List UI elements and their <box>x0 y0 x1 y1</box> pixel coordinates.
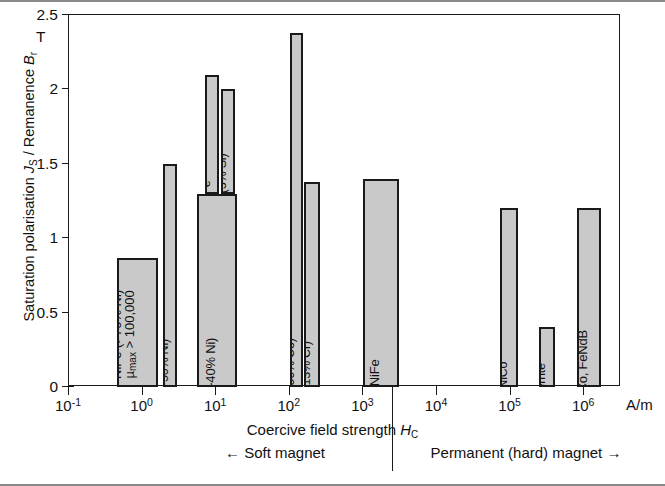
x-axis-tick-label: 104 <box>425 396 448 414</box>
x-axis-tick <box>215 386 216 395</box>
x-axis: 10-1100101102103104105106 <box>0 0 665 486</box>
x-axis-unit-label: A/m <box>626 396 653 413</box>
x-axis-tick-label: 101 <box>204 396 227 414</box>
x-axis-tick-label: 105 <box>498 396 521 414</box>
x-axis-tick <box>68 386 69 395</box>
x-axis-title: Coercive field strength HC <box>0 421 665 440</box>
x-axis-tick-label: 102 <box>278 396 301 414</box>
zone-label-soft-magnet: ← Soft magnet <box>160 444 390 461</box>
x-axis-tick-label: 106 <box>572 396 595 414</box>
x-axis-symbol-h: H <box>400 421 411 438</box>
x-axis-tick <box>289 386 290 395</box>
x-axis-tick <box>142 386 143 395</box>
x-axis-tick-label: 10-1 <box>55 396 81 414</box>
x-axis-tick <box>362 386 363 395</box>
x-axis-title-prefix: Coercive field strength <box>247 421 400 438</box>
x-axis-subscript-c: C <box>411 429 418 440</box>
zone-divider-line <box>392 386 393 471</box>
x-axis-tick <box>510 386 511 395</box>
figure-root: Saturation polarisation JS / Remanence B… <box>0 0 665 486</box>
x-axis-tick-label: 103 <box>351 396 374 414</box>
x-axis-tick <box>436 386 437 395</box>
zone-label-permanent-magnet: Permanent (hard) magnet → <box>396 444 656 461</box>
x-axis-tick <box>583 386 584 395</box>
x-axis-tick-label: 100 <box>130 396 153 414</box>
